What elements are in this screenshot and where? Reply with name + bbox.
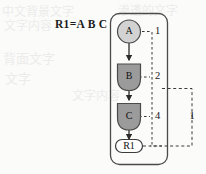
- node-a-label: A: [125, 25, 133, 36]
- edge-label-b: 2: [155, 70, 160, 81]
- edge-label-a: 1: [155, 25, 160, 36]
- edge-label-c: 4: [155, 110, 161, 121]
- figure-canvas: 中文背景文字 渗透的文字 文字内容 背面文字 文字 文字内容 R1=A B C …: [0, 0, 206, 174]
- node-c-label: C: [126, 110, 133, 121]
- edge-label-outer: 1: [189, 110, 194, 121]
- node-r1-label: R1: [123, 140, 135, 151]
- diagram-svg: A B C R1 1 2 4 1: [0, 0, 206, 174]
- node-b-label: B: [126, 70, 133, 81]
